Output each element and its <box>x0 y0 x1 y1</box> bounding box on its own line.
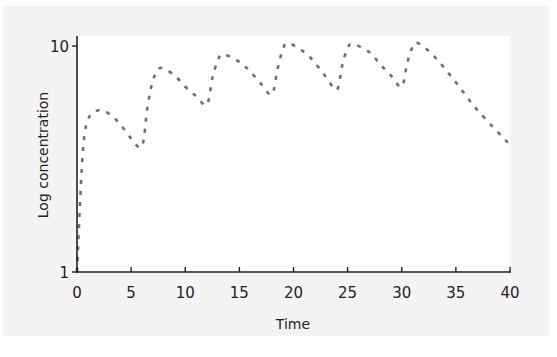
x-tick-label: 40 <box>500 284 519 302</box>
x-tick-label: 15 <box>230 284 249 302</box>
concentration-line <box>77 43 510 272</box>
x-tick-label: 5 <box>126 284 136 302</box>
x-tick-label: 35 <box>446 284 465 302</box>
x-tick-label: 30 <box>392 284 411 302</box>
concentration-chart: 0510152025303540 110 Time Log concentrat… <box>0 0 557 357</box>
y-axis-title: Log concentration <box>35 92 51 218</box>
x-tick-label: 20 <box>284 284 303 302</box>
x-tick-label: 10 <box>176 284 195 302</box>
y-tick-label: 10 <box>50 38 69 56</box>
concentration-curve <box>77 43 510 272</box>
y-ticks: 110 <box>50 38 77 282</box>
x-tick-label: 0 <box>72 284 82 302</box>
x-tick-label: 25 <box>338 284 357 302</box>
y-tick-label: 1 <box>59 264 69 282</box>
x-axis-title: Time <box>275 316 310 332</box>
